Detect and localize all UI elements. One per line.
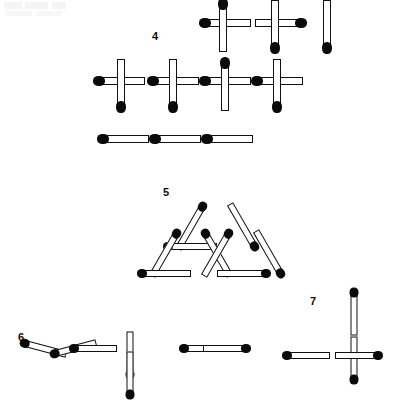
match-head: [116, 101, 126, 113]
faint-header-artifact-secondary: [6, 11, 68, 16]
matchstick: [169, 59, 177, 111]
matchstick: [151, 135, 201, 143]
match-head: [49, 348, 61, 359]
match-head: [147, 76, 159, 86]
match-head: [201, 134, 213, 144]
match-head: [272, 101, 282, 113]
matchstick: [335, 352, 381, 359]
matchstick: [127, 352, 134, 398]
matchstick: [217, 270, 269, 277]
matchstick: [255, 19, 305, 27]
matchstick: [273, 59, 281, 111]
figure-label-7: 7: [310, 296, 316, 307]
diagram-canvas: 4 5 6 7: [0, 0, 404, 419]
match-head: [261, 269, 271, 278]
match-head: [97, 134, 109, 144]
match-head: [126, 390, 135, 400]
matchstick: [271, 0, 279, 52]
match-head: [199, 18, 211, 28]
figure-label-4: 4: [152, 31, 158, 42]
match-head: [322, 42, 332, 54]
matchstick: [323, 0, 331, 52]
match-head: [218, 0, 228, 10]
matchstick: [351, 290, 358, 336]
matchstick: [203, 135, 253, 143]
matchstick: [227, 202, 259, 251]
match-head: [168, 101, 178, 113]
matchstick: [284, 352, 330, 359]
match-head: [350, 375, 359, 385]
match-head: [149, 134, 161, 144]
match-head: [282, 351, 292, 360]
matchstick: [221, 59, 229, 111]
matchstick: [351, 337, 358, 383]
match-head: [69, 344, 79, 353]
match-head: [350, 288, 359, 298]
match-head: [241, 344, 251, 353]
match-head: [93, 76, 105, 86]
match-head: [274, 267, 287, 280]
matchstick: [203, 345, 249, 352]
match-head: [137, 269, 147, 278]
matchstick: [117, 59, 125, 111]
figure-label-5: 5: [163, 187, 169, 198]
match-head: [270, 42, 280, 54]
match-head: [179, 344, 189, 353]
match-head: [373, 351, 383, 360]
match-head: [199, 76, 211, 86]
matchstick: [219, 0, 227, 52]
match-head: [295, 18, 307, 28]
match-head: [251, 76, 263, 86]
matchstick: [139, 270, 191, 277]
matchstick: [71, 345, 117, 352]
faint-header-artifact: [4, 2, 78, 9]
match-head: [220, 57, 230, 69]
matchstick: [99, 135, 149, 143]
